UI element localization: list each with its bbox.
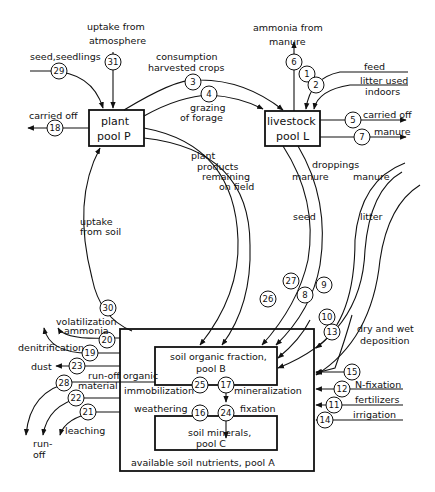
deposition-label: dry and wet [357,323,414,334]
ammonia-manure-label: ammonia from [253,22,323,33]
leaching-label: leaching [65,425,105,436]
manure-out-label: manure [374,126,411,137]
svg-text:14: 14 [320,415,331,425]
svg-text:on field: on field [219,181,254,192]
seed-seedlings-label: seed,seedlings [30,51,101,62]
dust-label: dust [31,361,52,372]
soil-organic-pool-box: soil organic fraction, pool B [155,347,277,385]
flow-29-arrow [30,71,103,108]
svg-text:25: 25 [195,380,206,390]
droppings-label: droppings [312,159,359,170]
plant-pool-sublabel: pool P [97,130,131,143]
svg-text:29: 29 [54,66,65,76]
svg-text:24: 24 [221,408,232,418]
svg-text:16: 16 [195,408,206,418]
svg-text:23: 23 [72,361,83,371]
soil-organic-label: soil organic fraction, [170,351,267,362]
feed-label: feed [364,61,385,72]
svg-text:ammonia: ammonia [64,325,109,336]
svg-text:10: 10 [322,312,333,322]
svg-text:deposition: deposition [360,335,410,346]
soil-minerals-sublabel: pool C [196,438,226,449]
plant-products-label: plant [191,150,216,161]
svg-text:manure: manure [269,36,306,47]
svg-text:20: 20 [102,335,113,345]
carried-off-livestock-label: carried off [363,109,412,120]
litter-used-label: litter used [360,75,408,86]
consumption-label: consumption [156,51,218,62]
svg-text:12: 12 [337,384,348,394]
livestock-pool-sublabel: pool L [276,130,310,143]
plant-pool-label: plant [101,115,130,128]
soil-organic-sublabel: pool B [196,363,226,374]
manure-label-b: manure [353,171,390,182]
litter-label: litter [360,211,383,222]
fixation-label: fixation [240,403,276,414]
svg-text:7: 7 [359,132,364,142]
svg-text:11: 11 [329,400,340,410]
svg-text:26: 26 [263,294,274,304]
svg-text:4: 4 [206,89,211,99]
plant-pool-box: plant pool P [89,110,144,146]
denitrification-label: denitrification [18,342,84,353]
svg-text:material: material [78,380,118,391]
mineralization-label: mineralization [234,385,302,396]
svg-text:30: 30 [103,303,114,313]
svg-text:15: 15 [347,367,358,377]
svg-text:5: 5 [350,115,355,125]
svg-text:indoors: indoors [365,86,400,97]
svg-text:1: 1 [304,69,309,79]
svg-text:6: 6 [291,57,296,67]
fertilizers-label: fertilizers [355,394,399,405]
svg-text:22: 22 [71,393,82,403]
svg-text:27: 27 [286,276,297,286]
livestock-pool-box: livestock pool L [265,111,320,146]
runoff-label: run- [33,438,52,449]
livestock-pool-label: livestock [267,115,316,128]
weathering-label: weathering [134,403,188,414]
svg-text:2: 2 [313,80,318,90]
carried-off-plant-label: carried off [29,110,78,121]
n-fixation-label: N-fixation [355,379,401,390]
available-pool-label: available soil nutrients, pool A [131,457,275,468]
svg-text:31: 31 [108,57,119,67]
uptake-atmosphere-label: uptake from [87,21,145,32]
svg-text:off: off [33,449,46,460]
irrigation-label: irrigation [353,409,396,420]
svg-text:harvested crops: harvested crops [148,62,225,73]
flow-10b-arrow [278,320,310,358]
svg-text:of forage: of forage [180,112,223,123]
svg-text:atmosphere: atmosphere [89,35,146,46]
svg-text:18: 18 [50,123,61,133]
nutrient-cycle-diagram: plant pool P livestock pool L available … [0,0,435,492]
manure-label-a: manure [292,171,329,182]
svg-text:17: 17 [221,380,232,390]
svg-text:8: 8 [302,290,307,300]
soil-minerals-pool-box: soil minerals, pool C [155,416,277,450]
svg-text:13: 13 [327,327,338,337]
svg-text:9: 9 [321,280,326,290]
svg-text:28: 28 [59,378,70,388]
svg-text:21: 21 [83,407,94,417]
svg-text:19: 19 [85,348,96,358]
immobilization-label: immobilization [124,385,194,396]
svg-text:from soil: from soil [80,226,121,237]
svg-text:3: 3 [190,77,195,87]
seed-label: seed [293,211,316,222]
soil-minerals-label: soil minerals, [188,427,251,438]
